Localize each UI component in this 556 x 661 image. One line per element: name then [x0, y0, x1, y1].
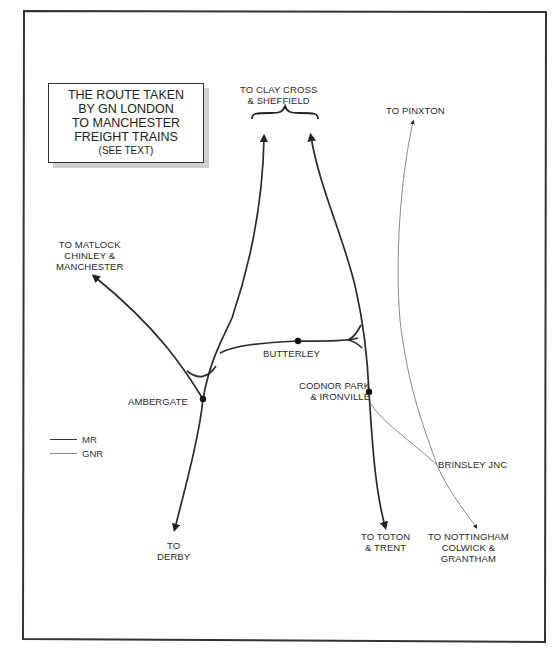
mr-line-derby-clay-cross	[175, 138, 264, 528]
gnr-line-codnor-brinsley	[370, 403, 437, 465]
title-line-2: BY GN LONDON	[49, 102, 203, 116]
label-nottingham: TO NOTTINGHAM COLWICK & GRANTHAM	[428, 531, 509, 564]
clay-cross-brace	[252, 106, 318, 119]
title-line-4: FREIGHT TRAINS	[49, 130, 203, 144]
mr-line-clay-cross-toton	[311, 137, 385, 526]
label-ambergate: AMBERGATE	[128, 396, 188, 407]
legend-item-gnr: GNR	[50, 446, 103, 460]
mr-lines	[95, 137, 385, 528]
label-butterley: BUTTERLEY	[263, 348, 320, 359]
mr-curve-butterley	[348, 325, 362, 348]
ambergate-dot	[200, 396, 206, 402]
mr-curve-ambergate	[187, 366, 216, 377]
title-line-1: THE ROUTE TAKEN	[49, 88, 203, 102]
label-derby: TO DERBY	[157, 540, 190, 562]
mr-line-swatch	[50, 439, 77, 440]
label-matlock: TO MATLOCK CHINLEY & MANCHESTER	[56, 239, 124, 272]
butterley-dot	[295, 338, 301, 344]
title-note: (SEE TEXT)	[49, 144, 203, 157]
gnr-line-swatch	[50, 453, 77, 454]
title-line-3: TO MANCHESTER	[49, 116, 203, 130]
legend: MR GNR	[50, 432, 103, 460]
label-pinxton: TO PINXTON	[386, 105, 445, 116]
mr-line-ambergate-matlock	[95, 277, 203, 399]
label-brinsley-jnc: BRINSLEY JNC	[438, 459, 507, 470]
legend-item-mr: MR	[50, 432, 103, 446]
label-clay-cross: TO CLAY CROSS & SHEFFIELD	[240, 84, 317, 106]
label-codnor-park: CODNOR PARK & IRONVILLE	[299, 380, 370, 402]
label-toton: TO TOTON & TRENT	[361, 531, 410, 553]
title-box: THE ROUTE TAKEN BY GN LONDON TO MANCHEST…	[48, 83, 204, 163]
